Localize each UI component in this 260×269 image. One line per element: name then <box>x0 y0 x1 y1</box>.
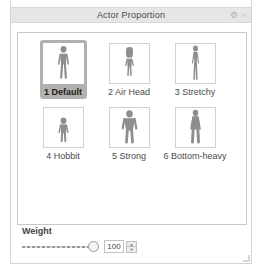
grid-cell: 2 Air Head <box>96 40 162 104</box>
weight-slider[interactable] <box>22 241 94 252</box>
weight-value-input[interactable]: 100 <box>104 240 124 253</box>
grid-cell: 4 Hobbit <box>30 104 96 168</box>
gear-icon[interactable]: ⚙ <box>230 11 238 20</box>
grid-cell: 1 Default <box>30 40 96 104</box>
proportion-thumbnail <box>109 43 150 84</box>
proportion-item-default[interactable]: 1 Default <box>40 40 87 99</box>
proportion-grid: 1 Default 2 Air Head <box>30 40 246 168</box>
proportion-item-strong[interactable]: 5 Strong <box>106 104 153 163</box>
bottom-heavy-proportion-figure-icon <box>176 108 215 147</box>
titlebar[interactable]: Actor Proportion ⚙ ▫ <box>11 7 251 23</box>
proportion-item-label: 4 Hobbit <box>46 151 80 161</box>
proportion-thumbnail <box>109 107 150 148</box>
spinner-down-button[interactable]: ▼ <box>126 246 137 253</box>
actor-proportion-panel: Actor Proportion ⚙ ▫ 1 Default <box>10 0 252 264</box>
proportion-thumbnail <box>175 107 216 148</box>
default-proportion-figure-icon <box>44 44 83 83</box>
stretchy-proportion-figure-icon <box>176 44 215 83</box>
proportion-item-label: 6 Bottom-heavy <box>163 151 226 161</box>
proportion-item-label: 2 Air Head <box>108 87 150 97</box>
weight-slider-track[interactable] <box>22 246 94 248</box>
resize-grip-icon[interactable] <box>243 255 250 262</box>
strong-proportion-figure-icon <box>110 108 149 147</box>
weight-slider-handle[interactable] <box>88 241 99 252</box>
weight-section: Weight 100 ▲ ▼ <box>22 226 242 253</box>
proportion-item-air-head[interactable]: 2 Air Head <box>105 40 153 99</box>
proportion-item-stretchy[interactable]: 3 Stretchy <box>172 40 219 99</box>
proportion-grid-panel: 1 Default 2 Air Head <box>17 32 247 225</box>
proportion-item-label: 3 Stretchy <box>175 87 216 97</box>
proportion-item-hobbit[interactable]: 4 Hobbit <box>40 104 87 163</box>
hobbit-proportion-figure-icon <box>44 108 83 147</box>
titlebar-icons: ⚙ ▫ <box>230 8 245 22</box>
proportion-thumbnail <box>43 43 84 84</box>
grid-cell: 5 Strong <box>96 104 162 168</box>
air-head-proportion-figure-icon <box>110 44 149 83</box>
proportion-item-label: 1 Default <box>44 87 82 97</box>
proportion-thumbnail <box>43 107 84 148</box>
grid-cell: 3 Stretchy <box>162 40 228 104</box>
float-icon[interactable]: ▫ <box>242 11 245 20</box>
panel-title: Actor Proportion <box>97 10 165 20</box>
proportion-item-bottom-heavy[interactable]: 6 Bottom-heavy <box>160 104 229 163</box>
weight-controls: 100 ▲ ▼ <box>22 240 242 253</box>
weight-spinner: ▲ ▼ <box>126 241 137 253</box>
weight-label: Weight <box>22 226 242 236</box>
proportion-thumbnail <box>175 43 216 84</box>
proportion-item-label: 5 Strong <box>112 151 146 161</box>
grid-cell: 6 Bottom-heavy <box>162 104 228 168</box>
